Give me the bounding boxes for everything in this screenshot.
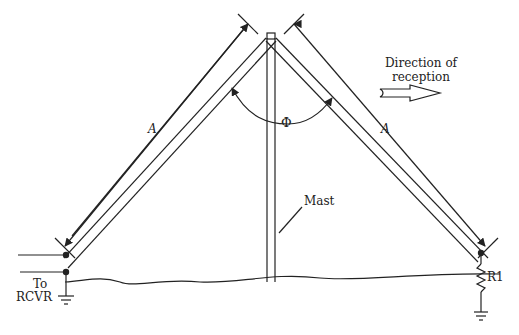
diagram-drawing [0, 0, 519, 335]
mast [267, 33, 275, 282]
mast-leader [279, 207, 302, 233]
antenna-diagram: Direction of reception A A Φ Mast To RCV… [0, 0, 519, 335]
mast-label: Mast [304, 194, 334, 208]
receiver-label: RCVR [16, 290, 52, 304]
dimension-a-left [55, 14, 258, 258]
dimension-a-right [284, 14, 498, 258]
angle-label: Φ [281, 116, 292, 130]
direction-label-line2: reception [373, 70, 469, 84]
leg-length-left-label: A [148, 122, 157, 136]
direction-arrow [380, 85, 440, 101]
leg-length-right-label: A [381, 122, 390, 136]
termination-resistor [474, 256, 488, 320]
to-label: To [33, 277, 47, 291]
resistor-label: R1 [487, 270, 504, 284]
direction-label-line1: Direction of [373, 56, 469, 70]
direction-label: Direction of reception [373, 56, 469, 84]
ground-line [65, 274, 500, 284]
left-antenna-wire [64, 38, 276, 268]
